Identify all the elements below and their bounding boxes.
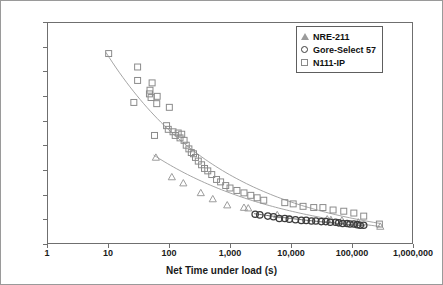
legend-item-nre211[interactable]: NRE-211 (301, 30, 376, 43)
data-point-square (320, 205, 326, 211)
legend-label: N111-IP (313, 58, 345, 68)
y-tick-mark (43, 121, 47, 122)
data-point-square (234, 187, 240, 193)
x-tick-mark (413, 244, 414, 248)
y-tick-mark (43, 170, 47, 171)
data-point-circle (286, 216, 292, 222)
x-tick-mark (169, 244, 170, 248)
data-point-square (241, 190, 247, 196)
x-tick-mark (291, 244, 292, 248)
legend-label: NRE-211 (313, 32, 350, 42)
x-tick-label: 1 (44, 248, 49, 258)
data-point-square (152, 132, 158, 138)
data-point-triangle (168, 173, 175, 179)
x-axis-title: Net Time under load (s) (1, 265, 442, 276)
chart-figure: 024681012141618 1101001,00010,000100,000… (0, 0, 443, 285)
square-marker-icon (301, 58, 310, 67)
y-tick-mark (43, 71, 47, 72)
data-point-square (166, 104, 172, 110)
legend-label: Gore-Select 57 (313, 45, 376, 55)
y-tick-mark (43, 219, 47, 220)
data-point-triangle (152, 154, 159, 160)
data-point-square (135, 77, 141, 83)
data-point-triangle (209, 195, 216, 201)
x-tick-label: 1,000,000 (393, 248, 433, 258)
data-point-square (330, 207, 336, 213)
y-tick-mark (43, 22, 47, 23)
data-point-square (248, 192, 254, 198)
x-tick-label: 10 (103, 248, 113, 258)
y-tick-mark (43, 96, 47, 97)
y-tick-mark (43, 195, 47, 196)
data-point-square (154, 101, 160, 107)
circle-marker-icon (301, 45, 310, 54)
series-gore-select-57 (252, 211, 367, 228)
data-point-square (149, 80, 155, 86)
x-tick-mark (230, 244, 231, 248)
data-point-square (351, 210, 357, 216)
data-point-square (227, 185, 233, 191)
x-tick-mark (108, 244, 109, 248)
data-point-triangle (224, 202, 231, 208)
x-tick-label: 10,000 (277, 248, 305, 258)
x-tick-label: 100,000 (336, 248, 369, 258)
data-point-square (131, 99, 137, 105)
data-point-triangle (180, 180, 187, 186)
y-tick-mark (43, 47, 47, 48)
data-point-square (261, 197, 267, 203)
data-point-square (341, 208, 347, 214)
data-point-square (154, 93, 160, 99)
data-point-square (361, 213, 367, 219)
x-tick-label: 1,000 (219, 248, 242, 258)
x-tick-mark (352, 244, 353, 248)
data-point-square (148, 95, 154, 101)
data-point-triangle (197, 189, 204, 195)
series-n111-ip (106, 51, 383, 227)
data-point-square (135, 64, 141, 70)
data-point-square (254, 195, 260, 201)
legend-item-n111-ip[interactable]: N111-IP (301, 56, 376, 69)
x-tick-label: 100 (161, 248, 176, 258)
legend: NRE-211 Gore-Select 57 N111-IP (296, 26, 383, 73)
legend-item-gore-select-57[interactable]: Gore-Select 57 (301, 43, 376, 56)
y-tick-mark (43, 145, 47, 146)
triangle-marker-icon (301, 32, 310, 41)
x-tick-mark (47, 244, 48, 248)
